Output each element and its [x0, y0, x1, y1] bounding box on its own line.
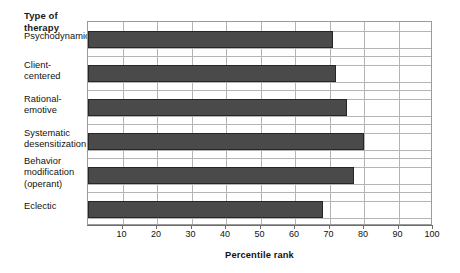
category-label-3-line-0: Systematic [24, 128, 70, 138]
gridline-band-3-1 [88, 150, 431, 151]
x-tick-label-20: 20 [143, 229, 169, 239]
bar-4 [88, 167, 354, 184]
gridline-vertical-80 [364, 22, 365, 224]
gridline-band-5-1 [88, 218, 431, 219]
category-label-4-line-2: (operant) [24, 179, 62, 189]
gridline-vertical-20 [157, 22, 158, 224]
category-label-3-line-1: desensitization [24, 139, 86, 149]
gridline-horizontal-3 [88, 124, 431, 125]
category-label-1-line-1: centered [24, 71, 61, 81]
gridline-vertical-70 [330, 22, 331, 224]
gridline-band-0-1 [88, 48, 431, 49]
x-tick-label-90: 90 [385, 229, 411, 239]
category-label-2: Rational-emotive [24, 94, 94, 116]
category-label-4-line-1: modification [24, 167, 74, 177]
category-label-1: Client-centered [24, 60, 94, 82]
category-label-2-line-1: emotive [24, 105, 57, 115]
category-label-3: Systematicdesensitization [24, 128, 94, 150]
category-label-4: Behaviormodification(operant) [24, 156, 94, 190]
bar-2 [88, 99, 347, 116]
gridline-band-2-1 [88, 116, 431, 117]
x-tick-label-80: 80 [350, 229, 376, 239]
gridline-horizontal-1 [88, 56, 431, 57]
gridline-vertical-30 [192, 22, 193, 224]
x-axis-title: Percentile rank [87, 250, 432, 260]
bar-3 [88, 133, 364, 150]
category-label-column: PsychodynamicClient-centeredRational-emo… [24, 21, 86, 225]
x-tick-label-40: 40 [212, 229, 238, 239]
gridline-band-4-1 [88, 184, 431, 185]
category-label-5-line-0: Eclectic [24, 201, 56, 211]
x-tick-label-30: 30 [178, 229, 204, 239]
gridline-vertical-90 [399, 22, 400, 224]
x-tick-label-50: 50 [247, 229, 273, 239]
gridline-horizontal-5 [88, 192, 431, 193]
gridline-horizontal-4 [88, 158, 431, 159]
x-tick-label-10: 10 [109, 229, 135, 239]
gridline-vertical-60 [295, 22, 296, 224]
x-tick-label-100: 100 [419, 229, 445, 239]
bar-chart: Type of therapy PsychodynamicClient-cent… [0, 0, 460, 273]
gridline-vertical-50 [261, 22, 262, 224]
x-tick-label-60: 60 [281, 229, 307, 239]
gridline-vertical-10 [123, 22, 124, 224]
category-label-5: Eclectic [24, 201, 94, 212]
category-label-4-line-0: Behavior [24, 156, 61, 166]
plot-area [87, 21, 432, 225]
category-label-1-line-0: Client- [24, 60, 51, 70]
gridline-band-1-1 [88, 82, 431, 83]
category-label-2-line-0: Rational- [24, 94, 62, 104]
category-label-0: Psychodynamic [24, 31, 94, 42]
bar-5 [88, 201, 323, 218]
y-axis-title-line-1: Type of [24, 10, 58, 21]
bar-0 [88, 31, 333, 48]
bar-1 [88, 65, 336, 82]
category-label-0-line-0: Psychodynamic [24, 31, 90, 41]
gridline-horizontal-2 [88, 90, 431, 91]
x-tick-label-70: 70 [316, 229, 342, 239]
gridline-vertical-40 [226, 22, 227, 224]
